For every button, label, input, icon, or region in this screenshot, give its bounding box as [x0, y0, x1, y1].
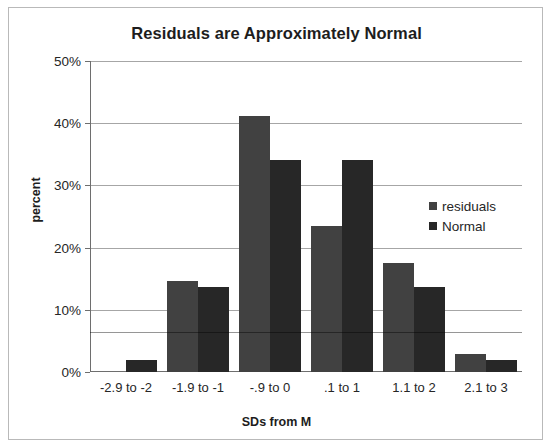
bar-group: .1 to 1 [306, 61, 378, 372]
y-tick-label: 30% [54, 178, 81, 193]
bar-group: -1.9 to -1 [162, 61, 234, 372]
x-tick-label: 2.1 to 3 [450, 380, 522, 395]
bar-normal[interactable] [342, 160, 373, 372]
legend-item-normal[interactable]: Normal [429, 216, 496, 236]
x-tick-label: -1.9 to -1 [162, 380, 234, 395]
bar-residuals[interactable] [311, 226, 342, 372]
x-tick-label: -2.9 to -2 [90, 380, 162, 395]
chart-frame: Residuals are Approximately Normal perce… [8, 7, 543, 440]
legend-swatch-icon [429, 202, 437, 210]
bar-normal[interactable] [126, 360, 157, 372]
chart-legend: residualsNormal [429, 196, 496, 236]
bar-normal[interactable] [414, 287, 445, 372]
y-tick-label: 50% [54, 54, 81, 69]
bar-normal[interactable] [198, 287, 229, 372]
y-tick-label: 40% [54, 116, 81, 131]
bar-normal[interactable] [270, 160, 301, 372]
legend-swatch-icon [429, 222, 437, 230]
bar-normal[interactable] [486, 360, 517, 372]
x-axis-title: SDs from M [9, 415, 544, 429]
bar-residuals[interactable] [239, 116, 270, 372]
y-axis-title: percent [29, 140, 43, 260]
legend-item-residuals[interactable]: residuals [429, 196, 496, 216]
y-tick-label: 0% [61, 365, 81, 380]
bar-residuals[interactable] [167, 281, 198, 372]
y-tick-label: 20% [54, 240, 81, 255]
y-tick-label: 10% [54, 302, 81, 317]
bar-group: -.9 to 0 [234, 61, 306, 372]
legend-label: Normal [442, 219, 486, 234]
x-tick-label: 1.1 to 2 [378, 380, 450, 395]
chart-title: Residuals are Approximately Normal [9, 24, 544, 43]
bar-group: -2.9 to -2 [90, 61, 162, 372]
bar-residuals[interactable] [383, 263, 414, 372]
x-tick-label: -.9 to 0 [234, 380, 306, 395]
bar-residuals[interactable] [455, 354, 486, 372]
y-tick-mark [85, 372, 90, 373]
x-tick-label: .1 to 1 [306, 380, 378, 395]
legend-label: residuals [442, 199, 496, 214]
